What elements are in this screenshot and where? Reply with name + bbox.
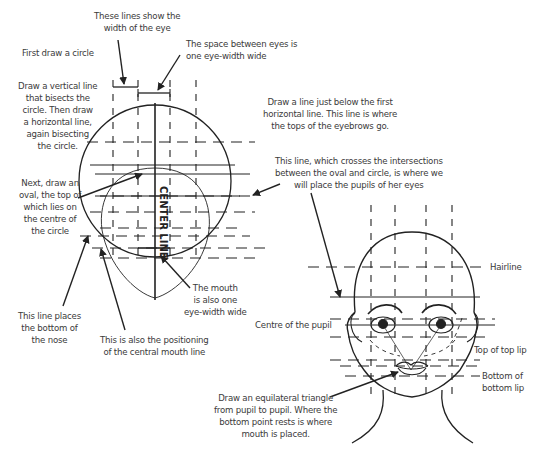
face-drawing-diagram: CENTER LINE These lines show the width o… [0, 0, 540, 461]
label-nose-bottom: This line places the bottom of the nose [18, 310, 81, 346]
label-vertical-line: Draw a vertical line that bisects the ci… [18, 80, 97, 152]
label-eye-width-lines: These lines show the width of the eye [94, 10, 180, 34]
label-centre-pupil: Centre of the pupil [255, 319, 332, 331]
label-top-lip: Top of top lip [474, 344, 527, 356]
label-oval: Next, draw an oval, the top of which lie… [19, 177, 81, 237]
center-line-label: CENTER LINE [158, 186, 169, 259]
label-space-between-eyes: The space between eyes is one eye-width … [186, 38, 297, 62]
label-eyebrow-line: Draw a line just below the first horizon… [263, 96, 397, 132]
label-triangle: Draw an equilateral triangle from pupil … [214, 392, 337, 440]
label-pupil-line: This line, which crosses the intersectio… [275, 155, 443, 191]
label-hairline: Hairline [490, 261, 522, 273]
label-mouth-line: This is also the positioning of the cent… [100, 334, 209, 358]
label-first-circle: First draw a circle [22, 47, 94, 59]
head-outline [347, 232, 477, 397]
label-mouth-width: The mouth is also one eye-width wide [184, 282, 247, 318]
label-bottom-lip: Bottom of bottom lip [482, 370, 524, 394]
